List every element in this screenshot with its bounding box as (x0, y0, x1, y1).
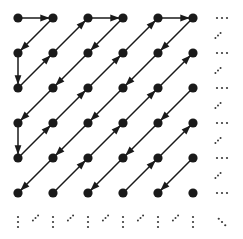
lattice-node (118, 118, 127, 127)
ellipsis-right-horizontal (216, 122, 228, 124)
lattice-node (118, 83, 127, 92)
lattice-node (83, 153, 92, 162)
ellipsis-right-diagonal (214, 67, 221, 74)
ellipsis-bottom-diagonal (67, 214, 74, 221)
lattice-node (188, 153, 197, 162)
ellipsis-right-horizontal (216, 17, 228, 19)
lattice-node (153, 48, 162, 57)
lattice-node (153, 83, 162, 92)
lattice-node (118, 48, 127, 57)
lattice-node (83, 83, 92, 92)
lattice-node (13, 118, 22, 127)
lattice-node (118, 13, 127, 22)
ellipsis-right-horizontal (216, 192, 228, 194)
lattice-node (188, 48, 197, 57)
ellipsis-right-horizontal (216, 87, 228, 89)
lattice-node (188, 83, 197, 92)
lattice-node (13, 153, 22, 162)
ellipsis-bottom-diagonal (32, 214, 39, 221)
arrowhead-horizontal-right (180, 15, 190, 22)
lattice-node (83, 13, 92, 22)
ellipsis-bottom-diagonal (137, 214, 144, 221)
lattice-node (13, 13, 22, 22)
ellipsis-bottom-vertical (192, 216, 194, 228)
ellipsis-bottom-vertical (87, 216, 89, 228)
ellipsis-right-diagonal (214, 102, 221, 109)
arrowhead-vertical-down (15, 75, 22, 85)
lattice-node (118, 153, 127, 162)
lattice-node (13, 83, 22, 92)
lattice-node (188, 188, 197, 197)
ellipsis-bottom-diagonal (102, 214, 109, 221)
arrowhead-horizontal-right (110, 15, 120, 22)
ellipsis-bottom-vertical (52, 216, 54, 228)
lattice-node (48, 118, 57, 127)
lattice-node (48, 188, 57, 197)
lattice-node (153, 153, 162, 162)
arrowhead-layer (15, 15, 191, 191)
lattice-node (13, 48, 22, 57)
lattice-node (153, 188, 162, 197)
ellipsis-right-horizontal (216, 157, 228, 159)
ellipsis-right-diagonal (214, 172, 221, 179)
lattice-node (83, 188, 92, 197)
ellipsis-bottom-vertical (157, 216, 159, 228)
arrowhead-horizontal-right (40, 15, 50, 22)
arrowhead-vertical-down (15, 145, 22, 155)
lattice-node (13, 188, 22, 197)
lattice-node (48, 13, 57, 22)
lattice-node (48, 153, 57, 162)
lattice-node (83, 48, 92, 57)
lattice-node (83, 118, 92, 127)
lattice-figure (0, 0, 243, 239)
lattice-node (153, 118, 162, 127)
ellipsis-bottom-vertical (17, 216, 19, 228)
lattice-node (118, 188, 127, 197)
lattice-node (48, 83, 57, 92)
ellipsis-right-horizontal (216, 52, 228, 54)
lattice-canvas (0, 0, 243, 239)
ellipsis-bottom-vertical (122, 216, 124, 228)
ellipsis-right-diagonal (214, 137, 221, 144)
lattice-node (48, 48, 57, 57)
lattice-node (188, 118, 197, 127)
lattice-node (188, 13, 197, 22)
ellipsis-corner-diagonal (218, 218, 227, 227)
ellipsis-bottom-diagonal (172, 214, 179, 221)
ellipsis-right-diagonal (214, 32, 221, 39)
lattice-node (153, 13, 162, 22)
